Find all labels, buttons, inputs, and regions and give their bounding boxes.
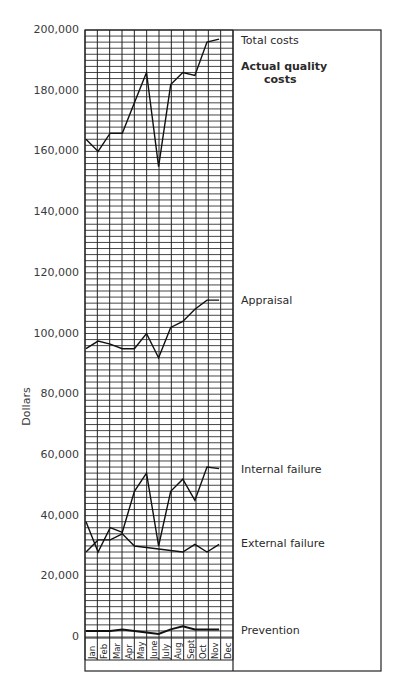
x-tick-month: Mar bbox=[112, 643, 122, 659]
x-tick-month: Dec bbox=[223, 643, 233, 659]
y-tick: 140,000 bbox=[0, 206, 79, 218]
label-actual-quality: Actual quality bbox=[241, 60, 327, 73]
x-tick-month: June bbox=[149, 640, 159, 659]
label-prevention: Prevention bbox=[241, 624, 300, 637]
y-tick: 100,000 bbox=[0, 328, 79, 340]
y-tick: 60,000 bbox=[0, 449, 79, 461]
line-prevention bbox=[86, 626, 219, 634]
y-tick: 160,000 bbox=[0, 145, 79, 157]
label-internal-failure: Internal failure bbox=[241, 463, 322, 476]
y-tick: 120,000 bbox=[0, 267, 79, 279]
x-tick-month: Sept bbox=[186, 640, 196, 659]
x-tick-month: Jan bbox=[87, 646, 97, 659]
quality-costs-chart bbox=[0, 0, 397, 691]
label-actual-costs: costs bbox=[264, 73, 296, 86]
y-axis-label: Dollars bbox=[20, 377, 33, 437]
x-tick-month: Aug bbox=[173, 642, 183, 659]
y-tick: 0 bbox=[0, 631, 79, 643]
x-tick-month: Apr bbox=[124, 644, 134, 659]
chart-grid bbox=[85, 30, 233, 671]
x-tick-month: Feb bbox=[99, 644, 109, 659]
y-tick: 80,000 bbox=[0, 388, 79, 400]
x-tick-month: July bbox=[161, 644, 171, 659]
y-tick: 180,000 bbox=[0, 85, 79, 97]
line-appraisal bbox=[86, 300, 219, 358]
y-tick: 200,000 bbox=[0, 24, 79, 36]
x-tick-month: Nov bbox=[210, 642, 220, 659]
label-appraisal: Appraisal bbox=[241, 294, 292, 307]
label-external-failure: External failure bbox=[241, 537, 325, 550]
y-tick: 20,000 bbox=[0, 570, 79, 582]
y-tick: 40,000 bbox=[0, 510, 79, 522]
x-tick-month: May bbox=[136, 641, 146, 659]
label-total-costs: Total costs bbox=[241, 34, 299, 47]
x-tick-month: Oct bbox=[198, 644, 208, 659]
series-lines bbox=[86, 39, 219, 634]
